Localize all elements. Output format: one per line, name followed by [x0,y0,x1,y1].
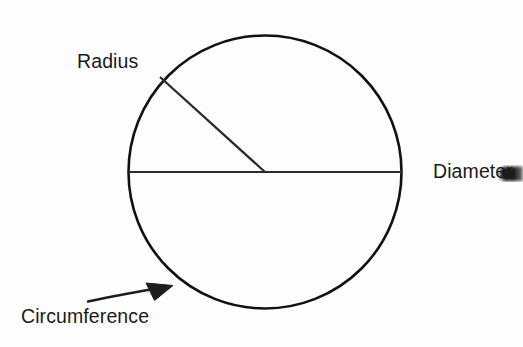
circumference-label: Circumference [21,307,149,327]
diagram-canvas: Radius Diameter Circumference [0,0,523,347]
diameter-label: Diameter [433,162,513,182]
circumference-arrow-icon [88,283,173,302]
radius-line [160,77,265,172]
radius-label: Radius [77,52,138,72]
